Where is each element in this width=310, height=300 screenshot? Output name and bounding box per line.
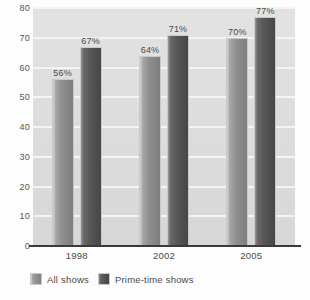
category-label-2005: 2005 <box>240 250 262 261</box>
plot-area: 56%67%64%71%70%77% <box>33 8 295 246</box>
legend-entry-all-shows[interactable]: All shows <box>30 273 89 285</box>
y-axis-tick-label: 80 <box>4 3 30 13</box>
y-axis-tick-label: 40 <box>4 122 30 132</box>
y-axis-tick-labels: 01020304050607080 <box>0 8 30 246</box>
bar-value-label: 67% <box>81 36 100 46</box>
y-axis-tick-label: 60 <box>4 63 30 73</box>
x-axis-category-labels: 199820022005 <box>33 250 295 264</box>
x-axis-line <box>29 245 301 247</box>
category-label-1998: 1998 <box>66 250 88 261</box>
bar-chart-figure: 01020304050607080 56%67%64%71%70%77% 199… <box>0 0 310 300</box>
y-axis-tick-label: 10 <box>4 211 30 221</box>
bar-prime-time-shows-2005: 77% <box>254 17 276 246</box>
bar-all-shows-1998: 56% <box>52 79 74 246</box>
category-label-2002: 2002 <box>153 250 175 261</box>
legend-label: Prime-time shows <box>115 274 194 285</box>
legend-swatch-icon <box>98 273 110 285</box>
bar-prime-time-shows-1998: 67% <box>80 47 102 246</box>
legend-swatch-icon <box>30 273 42 285</box>
bar-value-label: 71% <box>169 24 188 34</box>
chart-legend: All showsPrime-time shows <box>30 273 194 285</box>
y-axis-tick-label: 30 <box>4 152 30 162</box>
bar-value-label: 64% <box>141 45 160 55</box>
y-axis-tick-label: 20 <box>4 182 30 192</box>
y-axis-tick-label: 0 <box>4 241 30 251</box>
y-axis-tick-label: 70 <box>4 33 30 43</box>
bar-prime-time-shows-2002: 71% <box>167 35 189 246</box>
legend-entry-prime-time-shows[interactable]: Prime-time shows <box>98 273 194 285</box>
bar-all-shows-2005: 70% <box>226 38 248 246</box>
bar-value-label: 77% <box>256 6 275 16</box>
bar-value-label: 56% <box>53 68 72 78</box>
legend-label: All shows <box>47 274 89 285</box>
bar-value-label: 70% <box>228 27 247 37</box>
y-axis-tick-label: 50 <box>4 92 30 102</box>
bar-all-shows-2002: 64% <box>139 56 161 246</box>
